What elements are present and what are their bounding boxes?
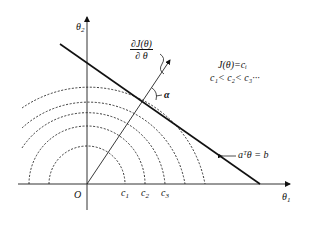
gradient-label: ∂J(θ) ∂ θ (130, 38, 153, 61)
constraint-label: aᵀθ = b (238, 150, 269, 160)
legend-line-2: c₁< c₂< c₃··· (210, 73, 260, 83)
contour-label-c3: c3 (161, 188, 169, 200)
origin-label: O (74, 190, 81, 200)
y-axis-label: θ2 (76, 22, 84, 34)
x-axis-label: θ1 (282, 192, 290, 204)
contour-label-c2: c2 (141, 188, 149, 200)
gradient-arrow (87, 60, 170, 184)
contour-label-c1: c1 (121, 188, 129, 200)
diagram-canvas: θ2 θ1 O c1 c2 c3 ∂J(θ) ∂ θ α aᵀθ = b J(θ… (0, 0, 309, 228)
legend-line-1: J(θ)=cᵢ (218, 60, 247, 70)
contour-arcs (22, 87, 205, 184)
diagram-graphics (0, 0, 309, 228)
angle-arc (152, 88, 157, 100)
angle-label: α (164, 90, 170, 100)
